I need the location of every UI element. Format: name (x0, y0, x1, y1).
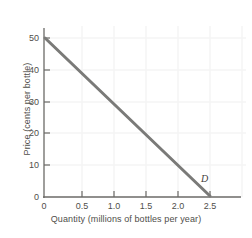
x-tick-label-1.5: 1.5 (140, 201, 153, 211)
x-tick-label-0: 0 (41, 201, 46, 211)
y-tick-label-0: 0 (34, 192, 39, 202)
gridlines (44, 26, 246, 197)
chart-canvas: 50 40 30 20 10 0 0 0.5 1.0 1.5 2.0 2.5 D (0, 0, 252, 238)
x-tick-label-1.0: 1.0 (108, 201, 121, 211)
y-axis-title: Price (cents per bottle) (22, 34, 32, 184)
x-axis-ticks (82, 191, 210, 197)
y-axis-ticks (44, 38, 50, 165)
demand-curve-figure: 50 40 30 20 10 0 0 0.5 1.0 1.5 2.0 2.5 D… (0, 0, 252, 238)
x-tick-label-2.0: 2.0 (172, 201, 185, 211)
x-tick-label-0.5: 0.5 (76, 201, 89, 211)
demand-curve-label: D (200, 173, 209, 184)
x-axis-title: Quantity (millions of bottles per year) (0, 214, 252, 224)
demand-curve-line (45, 38, 210, 196)
x-tick-label-2.5: 2.5 (204, 201, 217, 211)
